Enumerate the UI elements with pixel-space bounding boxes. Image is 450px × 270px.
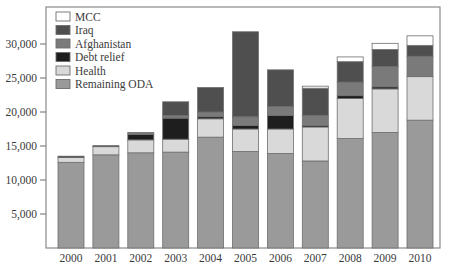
x-axis: 2000200120022003200420052006200720082009… bbox=[60, 252, 432, 264]
bar-segment-iraq bbox=[163, 102, 189, 116]
x-tick-label: 2010 bbox=[409, 252, 432, 264]
bar-segment-afghanistan bbox=[267, 107, 293, 116]
bar-2006 bbox=[267, 70, 293, 248]
bar-segment-remaining-oda bbox=[163, 152, 189, 248]
bar-segment-iraq bbox=[267, 70, 293, 107]
bar-2005 bbox=[233, 32, 259, 248]
bar-segment-afghanistan bbox=[337, 82, 363, 96]
bar-segment-afghanistan bbox=[372, 66, 398, 86]
legend-swatch bbox=[56, 39, 70, 48]
bar-segment-remaining-oda bbox=[128, 153, 154, 248]
legend-swatch bbox=[56, 66, 70, 75]
legend-label: Remaining ODA bbox=[75, 78, 154, 91]
x-tick-label: 2003 bbox=[164, 252, 187, 264]
bar-segment-debt-relief bbox=[128, 134, 154, 139]
stacked-bar-chart: 5,00010,00015,00020,00025,00030,000 2000… bbox=[0, 0, 450, 270]
bar-segment-iraq bbox=[372, 49, 398, 66]
x-tick-label: 2007 bbox=[304, 252, 327, 264]
legend-label: Iraq bbox=[75, 24, 94, 37]
y-tick-label: 20,000 bbox=[5, 106, 37, 119]
bar-segment-afghanistan bbox=[198, 112, 224, 117]
legend-swatch bbox=[56, 53, 70, 62]
bar-segment-remaining-oda bbox=[233, 151, 259, 248]
bar-segment-afghanistan bbox=[407, 56, 433, 76]
bar-segment-health bbox=[337, 98, 363, 138]
bar-segment-iraq bbox=[302, 88, 328, 115]
bar-2004 bbox=[198, 88, 224, 248]
bar-segment-debt-relief bbox=[337, 96, 363, 99]
bar-segment-health bbox=[198, 119, 224, 137]
legend-label: Health bbox=[75, 65, 106, 77]
bar-segment-health bbox=[163, 139, 189, 152]
legend-label: Afghanistan bbox=[75, 38, 131, 51]
bar-segment-debt-relief bbox=[163, 118, 189, 139]
bar-segment-remaining-oda bbox=[337, 139, 363, 248]
bar-segment-mcc bbox=[372, 43, 398, 49]
bar-2000 bbox=[58, 156, 84, 248]
bar-2001 bbox=[93, 146, 119, 248]
bar-segment-health bbox=[93, 147, 119, 155]
x-tick-label: 2006 bbox=[269, 252, 292, 264]
x-tick-label: 2002 bbox=[129, 252, 152, 264]
bar-segment-mcc bbox=[407, 36, 433, 46]
bar-segment-mcc bbox=[337, 57, 363, 62]
bar-segment-health bbox=[128, 140, 154, 153]
x-tick-label: 2000 bbox=[60, 252, 83, 264]
y-axis: 5,00010,00015,00020,00025,00030,000 bbox=[5, 38, 46, 221]
x-tick-label: 2005 bbox=[234, 252, 257, 264]
x-tick-label: 2009 bbox=[374, 252, 397, 264]
bar-2007 bbox=[302, 86, 328, 248]
legend-swatch bbox=[56, 80, 70, 89]
bar-segment-remaining-oda bbox=[198, 137, 224, 248]
bar-2002 bbox=[128, 132, 154, 248]
bar-segment-debt-relief bbox=[58, 156, 84, 157]
legend-item-debt-relief: Debt relief bbox=[56, 51, 125, 63]
bar-segment-remaining-oda bbox=[267, 153, 293, 248]
bar-2003 bbox=[163, 102, 189, 248]
bar-2008 bbox=[337, 57, 363, 248]
bar-segment-debt-relief bbox=[233, 126, 259, 129]
bar-segment-debt-relief bbox=[267, 115, 293, 129]
bar-segment-remaining-oda bbox=[93, 155, 119, 248]
y-tick-label: 10,000 bbox=[5, 174, 37, 187]
legend-item-mcc: MCC bbox=[56, 11, 101, 23]
legend-label: Debt relief bbox=[75, 51, 125, 63]
bar-segment-health bbox=[372, 89, 398, 133]
bar-segment-health bbox=[407, 77, 433, 121]
bar-segment-iraq bbox=[233, 32, 259, 117]
bar-segment-afghanistan bbox=[163, 115, 189, 118]
legend-label: MCC bbox=[75, 11, 101, 23]
bar-segment-remaining-oda bbox=[302, 161, 328, 248]
bar-segment-remaining-oda bbox=[407, 120, 433, 248]
x-tick-label: 2008 bbox=[339, 252, 362, 264]
legend-swatch bbox=[56, 26, 70, 35]
bar-segment-afghanistan bbox=[302, 115, 328, 125]
y-tick-label: 25,000 bbox=[5, 72, 37, 85]
bar-2010 bbox=[407, 36, 433, 248]
bar-segment-health bbox=[302, 127, 328, 161]
bar-2009 bbox=[372, 43, 398, 248]
bar-segment-health bbox=[233, 129, 259, 151]
bar-segment-health bbox=[267, 129, 293, 153]
x-tick-label: 2001 bbox=[94, 252, 117, 264]
bar-segment-afghanistan bbox=[233, 117, 259, 126]
bar-segment-mcc bbox=[302, 86, 328, 88]
bar-segment-remaining-oda bbox=[372, 132, 398, 248]
x-tick-label: 2004 bbox=[199, 252, 222, 264]
bar-segment-health bbox=[58, 158, 84, 163]
y-tick-label: 30,000 bbox=[5, 38, 37, 51]
bar-segment-iraq bbox=[407, 45, 433, 56]
bar-segment-debt-relief bbox=[93, 146, 119, 147]
bar-segment-remaining-oda bbox=[58, 162, 84, 248]
y-tick-label: 5,000 bbox=[11, 208, 37, 221]
legend-swatch bbox=[56, 12, 70, 21]
bar-segment-iraq bbox=[198, 88, 224, 112]
bar-segment-afghanistan bbox=[128, 132, 154, 134]
y-tick-label: 15,000 bbox=[5, 140, 37, 153]
legend-item-health: Health bbox=[56, 65, 106, 77]
bar-segment-iraq bbox=[337, 62, 363, 82]
